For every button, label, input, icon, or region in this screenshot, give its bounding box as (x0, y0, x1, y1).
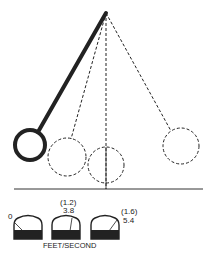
meter-1 (14, 216, 42, 240)
meter-3-value: 5.4 (123, 217, 134, 225)
meter-3-secondary: (1.6) (121, 208, 137, 216)
meter-2 (52, 216, 80, 240)
pendulum-diagram (0, 0, 216, 258)
units-label: FEET/SECOND (43, 242, 96, 250)
pendulum-bob-dashed-far (163, 128, 199, 164)
pendulum-string-dashed-mid (71, 13, 106, 139)
pendulum-bob-solid (15, 130, 45, 160)
pendulum-string-solid (38, 13, 106, 132)
pendulum-bob-dashed-mid (48, 138, 86, 176)
meter-3 (91, 216, 119, 240)
meter-1-value: 0 (8, 213, 12, 221)
pendulum-string-dashed-far (106, 13, 171, 131)
meter-2-value: 3.8 (63, 207, 74, 215)
